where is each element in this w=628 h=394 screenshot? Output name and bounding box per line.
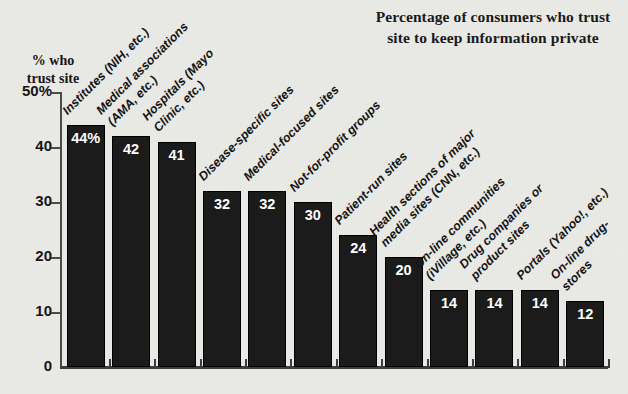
y-axis-tick-label: 0 xyxy=(44,357,52,374)
bar[interactable]: 20 xyxy=(385,257,423,367)
chart-title: Percentage of consumers who trust site t… xyxy=(360,7,626,48)
y-axis-tick xyxy=(51,312,62,314)
y-axis-tick-label: 50% xyxy=(22,82,52,99)
chart-title-line-2: site to keep information private xyxy=(360,28,626,49)
bar-value-label: 44% xyxy=(67,130,105,146)
bar-value-label: 32 xyxy=(248,196,286,212)
chart-container: Percentage of consumers who trust site t… xyxy=(0,0,628,394)
x-axis-tick xyxy=(472,359,474,368)
bar[interactable]: 42 xyxy=(112,136,150,367)
y-axis-caption-line-1: % who xyxy=(14,52,92,70)
y-axis-tick xyxy=(51,257,62,259)
bar-value-label: 42 xyxy=(112,141,150,157)
x-axis-tick xyxy=(109,359,111,368)
bar[interactable]: 44% xyxy=(67,125,105,367)
bar-value-label: 41 xyxy=(158,147,196,163)
x-axis-tick xyxy=(245,359,247,368)
bar[interactable]: 14 xyxy=(475,290,513,367)
bar-value-label: 24 xyxy=(339,240,377,256)
bar[interactable]: 32 xyxy=(248,191,286,367)
y-axis-tick-label: 10 xyxy=(35,302,52,319)
bar[interactable]: 41 xyxy=(158,142,196,368)
x-axis-tick xyxy=(517,359,519,368)
x-axis-tick xyxy=(563,359,565,368)
y-axis-tick-labels: 50%403020100 xyxy=(2,92,52,368)
bar[interactable]: 12 xyxy=(566,301,604,367)
y-axis-tick-label: 40 xyxy=(35,137,52,154)
x-axis-tick xyxy=(427,359,429,368)
x-axis-tick xyxy=(200,359,202,368)
chart-title-line-1: Percentage of consumers who trust xyxy=(360,7,626,28)
bar[interactable]: 24 xyxy=(339,235,377,367)
bar[interactable]: 30 xyxy=(294,202,332,367)
bar[interactable]: 32 xyxy=(203,191,241,367)
bar[interactable]: 14 xyxy=(430,290,468,367)
y-axis-tick xyxy=(51,147,62,149)
x-axis-tick xyxy=(381,359,383,368)
y-axis-tick-label: 20 xyxy=(35,247,52,264)
y-axis-line xyxy=(60,92,62,368)
y-axis-tick-label: 30 xyxy=(35,192,52,209)
bar-value-label: 14 xyxy=(521,295,559,311)
x-axis-tick xyxy=(336,359,338,368)
bar-value-label: 30 xyxy=(294,207,332,223)
bar[interactable]: 14 xyxy=(521,290,559,367)
x-axis-tick xyxy=(290,359,292,368)
y-axis-tick xyxy=(51,202,62,204)
x-axis-tick xyxy=(154,359,156,368)
bar-value-label: 12 xyxy=(566,306,604,322)
y-axis-tick xyxy=(51,92,62,94)
bar-value-label: 14 xyxy=(430,295,468,311)
x-axis-tick xyxy=(608,359,610,368)
bar-value-label: 14 xyxy=(475,295,513,311)
bar-value-label: 32 xyxy=(203,196,241,212)
